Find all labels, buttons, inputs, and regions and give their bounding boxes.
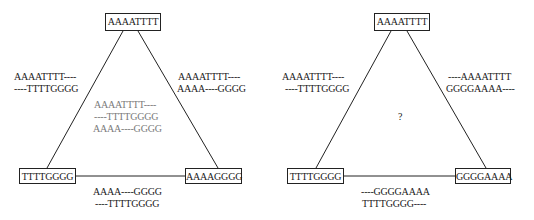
- edge-bottom-alignment-line-1: AAAA----GGGG: [93, 186, 162, 198]
- edge-bottom-alignment-line-2: ----TTTTGGGG: [95, 198, 159, 210]
- edge-right-alignment-line-2: AAAA----GGGG: [177, 83, 246, 95]
- alignment-triangle-right: AAAATTTT TTTTGGGG GGGGAAAA AAAATTTT---- …: [267, 0, 534, 220]
- edge-left-alignment-line-2: ----TTTTGGGG: [14, 83, 78, 95]
- edge-left-alignment-line-2: ----TTTTGGGG: [285, 83, 349, 95]
- edge-bottom-alignment-line-2: TTTTGGGG----: [362, 198, 426, 210]
- center-alignment-line-1: AAAATTTT----: [94, 99, 156, 111]
- node-top: AAAATTTT: [105, 13, 161, 31]
- node-top: AAAATTTT: [374, 13, 430, 31]
- edge-left-alignment-line-1: AAAATTTT----: [14, 71, 76, 83]
- edge-right-alignment-line-1: AAAATTTT----: [178, 71, 240, 83]
- edge-bottom-alignment-line-1: ----GGGGAAAA: [361, 186, 430, 198]
- node-bottom-left: TTTTGGGG: [287, 168, 344, 184]
- center-alignment-line-2: ----TTTTGGGG: [94, 111, 158, 123]
- center-alignment-line-3: AAAA----GGGG: [93, 123, 162, 135]
- edge-left-alignment-line-1: AAAATTTT----: [282, 71, 344, 83]
- node-bottom-left: TTTTGGGG: [19, 168, 76, 184]
- node-bottom-right: AAAAGGGG: [185, 168, 242, 184]
- alignment-triangle-left: AAAATTTT TTTTGGGG AAAAGGGG AAAATTTT---- …: [0, 0, 267, 220]
- unknown-center-marker: ?: [398, 111, 402, 122]
- edge-right-alignment-line-1: ----AAAATTTT: [448, 71, 511, 83]
- edge-right-alignment-line-2: GGGGAAAA----: [446, 83, 515, 95]
- node-bottom-right: GGGGAAAA: [455, 168, 511, 184]
